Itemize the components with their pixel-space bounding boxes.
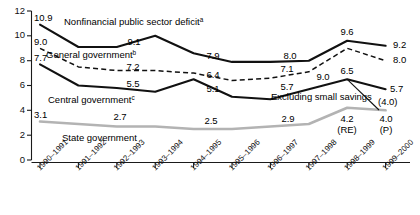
line-chart-svg: 12 10 8 6 4 2 0 1990–1991 1991–1992 1992…: [0, 0, 420, 215]
series-label-nonfinancial: Nonfinancial public sector deficita: [64, 16, 204, 28]
data-label-gg-1995: 6.4: [206, 69, 219, 80]
series-label-central: Central governmentc: [48, 94, 135, 106]
marker-revised-estimate: (RE): [337, 124, 357, 135]
data-label-gg-1997: 7.1: [280, 63, 293, 74]
x-tick-label-4: 1994–1995: [189, 137, 224, 172]
series-label-nonfinancial-sup: a: [200, 16, 204, 23]
data-label-nf-1998: 9.6: [340, 26, 353, 37]
series-label-general: General governmentb: [46, 49, 137, 61]
data-label-cg-1993: 5.5: [126, 78, 139, 89]
x-tick-label-5: 1995–1996: [227, 137, 262, 172]
y-tick-label-10: 10: [14, 29, 25, 40]
data-label-gg-1998: 9.0: [316, 71, 329, 82]
data-label-nf-1992: 9.1: [127, 36, 140, 47]
annotation-excluding-small-savings: Excluding small savings: [271, 91, 372, 102]
series-label-central-sup: c: [131, 94, 135, 101]
x-tick-label-3: 1993–1994: [150, 137, 185, 172]
data-label-sg-1994: 2.5: [204, 115, 217, 126]
x-tick-label-9: 1999–2000: [381, 137, 416, 172]
x-tick-label-7: 1997–1998: [304, 137, 339, 172]
data-label-gg-1999: 8.0: [393, 54, 406, 65]
series-label-general-text: General government: [46, 49, 133, 60]
chart-container: 12 10 8 6 4 2 0 1990–1991 1991–1992 1992…: [0, 0, 420, 215]
y-tick-label-12: 12: [14, 5, 25, 16]
y-tick-label-4: 4: [20, 104, 25, 115]
series-label-central-text: Central government: [48, 94, 132, 105]
data-label-cg-1995: 5.1: [206, 83, 219, 94]
data-label-sg-1997: 2.9: [281, 113, 294, 124]
data-label-gg-1993: 7.2: [126, 61, 139, 72]
y-tick-label-6: 6: [20, 79, 25, 90]
series-label-general-sup: b: [133, 49, 137, 56]
marker-provisional: (P): [380, 124, 393, 135]
data-label-cg-1998: 6.5: [340, 65, 353, 76]
data-label-excluding-small-savings-value: (4.0): [378, 96, 398, 107]
data-label-sg-1990: 3.1: [34, 109, 47, 120]
data-label-nf-1995: 7.9: [206, 50, 219, 61]
data-label-nf-1999: 9.2: [393, 39, 406, 50]
series-label-nonfinancial-text: Nonfinancial public sector deficit: [64, 16, 200, 27]
data-label-gg-1990: 9.0: [34, 36, 47, 47]
data-label-sg-1999: 4.0: [379, 113, 392, 124]
data-label-sg-1998: 4.2: [340, 113, 353, 124]
series-label-state: State government: [62, 132, 137, 143]
y-tick-label-8: 8: [20, 54, 25, 65]
data-label-cg-1999: 5.7: [390, 83, 403, 94]
y-tick-label-2: 2: [20, 129, 25, 140]
data-label-nf-1997: 8.0: [283, 50, 296, 61]
data-label-nf-1990: 10.9: [34, 12, 53, 23]
data-label-sg-1992: 2.7: [113, 111, 126, 122]
x-tick-label-6: 1996–1997: [265, 137, 300, 172]
x-tick-label-8: 1998–1999: [342, 137, 377, 172]
y-tick-label-0: 0: [20, 154, 25, 165]
y-axis: 12 10 8 6 4 2 0: [14, 5, 31, 165]
